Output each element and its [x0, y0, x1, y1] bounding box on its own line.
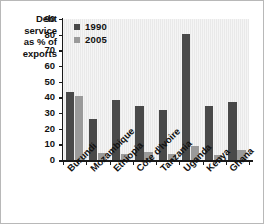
x-axis-label-ghana: Ghana: [227, 145, 256, 174]
x-axis-labels: BurundiMozambiqueEthiopiaCôte d'IvoireTa…: [1, 1, 264, 224]
bar-chart-figure: Debt service as % of exports 90807060504…: [0, 0, 264, 224]
